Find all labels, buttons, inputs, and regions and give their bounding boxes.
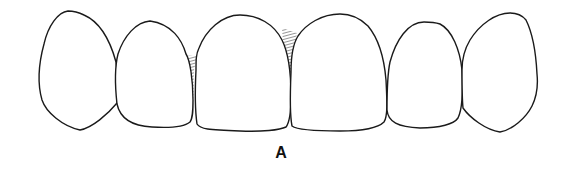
- tooth-central-incisor-left: [195, 15, 291, 131]
- tooth-canine-left: [39, 11, 117, 130]
- tooth-central-incisor-right: [290, 14, 387, 131]
- tooth-lateral-incisor-left: [116, 21, 193, 127]
- figure-label-text: A: [275, 144, 287, 161]
- tooth-canine-right: [462, 13, 537, 132]
- tooth-lateral-incisor-right: [387, 22, 462, 128]
- figure-label: A: [0, 144, 568, 162]
